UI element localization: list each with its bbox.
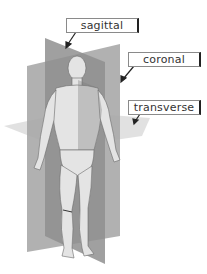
coronal-label: coronal (128, 52, 201, 67)
sagittal-label: sagittal (66, 18, 139, 33)
transverse-label: transverse (128, 100, 201, 115)
anatomical-planes-figure (0, 0, 207, 274)
